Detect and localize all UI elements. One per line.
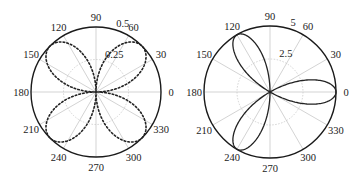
theta-tick-label: 30 — [331, 49, 342, 60]
grid-spoke — [64, 92, 97, 148]
theta-tick-label: 120 — [51, 22, 67, 33]
polar-charts: 03060901201501802102402703003300.250.5 0… — [0, 0, 356, 185]
theta-tick-label: 120 — [224, 21, 240, 32]
r-tick-label: 0.25 — [105, 49, 123, 60]
theta-tick-label: 330 — [153, 124, 169, 135]
polar-plot-three-petal-rose: 03060901201501802102402703003302.55 — [186, 11, 349, 174]
theta-tick-label: 270 — [88, 162, 104, 173]
theta-tick-label: 240 — [51, 152, 67, 163]
theta-tick-label: 30 — [156, 49, 167, 60]
theta-tick-label: 180 — [186, 87, 202, 98]
theta-tick-label: 300 — [126, 152, 142, 163]
grid-spoke — [270, 35, 303, 92]
theta-tick-label: 90 — [91, 12, 102, 23]
theta-tick-label: 0 — [168, 87, 173, 98]
theta-tick-label: 270 — [262, 163, 278, 174]
theta-tick-label: 210 — [23, 124, 39, 135]
theta-tick-label: 300 — [300, 152, 316, 163]
theta-tick-label: 210 — [196, 125, 212, 136]
theta-tick-label: 240 — [224, 152, 240, 163]
r-tick-label: 2.5 — [279, 48, 292, 59]
theta-tick-label: 150 — [196, 49, 212, 60]
r-tick-label: 5 — [291, 17, 296, 28]
theta-tick-label: 150 — [23, 49, 39, 60]
theta-tick-label: 330 — [328, 125, 344, 136]
polar-plot-four-petal-rose: 03060901201501802102402703003300.250.5 — [13, 12, 174, 173]
theta-tick-label: 0 — [343, 87, 348, 98]
theta-tick-label: 60 — [128, 22, 139, 33]
r-tick-label: 0.5 — [116, 18, 129, 29]
theta-tick-label: 180 — [13, 87, 29, 98]
theta-tick-label: 90 — [265, 11, 276, 22]
theta-tick-label: 60 — [303, 21, 314, 32]
